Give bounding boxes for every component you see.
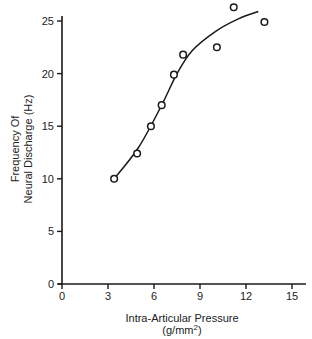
y-tick-label: 15 bbox=[42, 120, 54, 132]
y-tick-label: 10 bbox=[42, 173, 54, 185]
data-points bbox=[111, 4, 268, 182]
data-point-marker bbox=[214, 44, 221, 51]
y-tick-label: 25 bbox=[42, 15, 54, 27]
y-ticks: 0510152025 bbox=[42, 15, 62, 290]
y-tick-label: 20 bbox=[42, 68, 54, 80]
data-point-marker bbox=[230, 4, 237, 11]
x-ticks: 03691215 bbox=[59, 284, 298, 302]
data-point-marker bbox=[134, 150, 141, 157]
x-axis-units: (g/mm2) bbox=[162, 323, 201, 336]
y-tick-label: 5 bbox=[48, 225, 54, 237]
data-point-marker bbox=[158, 102, 165, 109]
y-axis-title-line2: Neural Discharge (Hz) bbox=[22, 95, 34, 204]
x-tick-label: 15 bbox=[286, 290, 298, 302]
chart: 0510152025 03691215 Frequency Of Neural … bbox=[0, 0, 312, 339]
x-tick-label: 0 bbox=[59, 290, 65, 302]
x-tick-label: 6 bbox=[151, 290, 157, 302]
x-tick-label: 9 bbox=[197, 290, 203, 302]
data-point-marker bbox=[261, 19, 268, 26]
data-point-marker bbox=[171, 71, 178, 78]
x-axis-title: Intra-Articular Pressure bbox=[125, 312, 238, 324]
x-tick-label: 3 bbox=[105, 290, 111, 302]
y-tick-label: 0 bbox=[48, 278, 54, 290]
y-axis-title-line1: Frequency Of bbox=[9, 115, 21, 183]
data-point-marker bbox=[180, 51, 187, 58]
data-point-marker bbox=[148, 123, 155, 130]
x-tick-label: 12 bbox=[240, 290, 252, 302]
y-axis-title: Frequency Of Neural Discharge (Hz) bbox=[9, 95, 34, 204]
data-point-marker bbox=[111, 176, 118, 183]
